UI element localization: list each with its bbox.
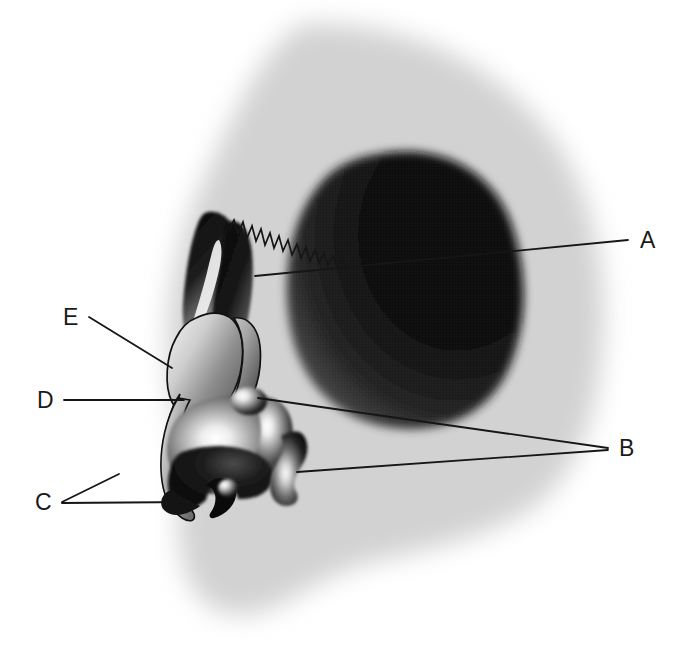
label-c: C <box>35 491 52 514</box>
leader-line-c-upper <box>62 474 119 502</box>
anatomy-illustration-canvas <box>0 0 697 659</box>
anatomy-figure: A B C D E <box>0 0 697 659</box>
label-b: B <box>619 437 634 460</box>
leader-line-e <box>89 317 172 368</box>
label-a: A <box>640 229 655 252</box>
nodule-inferior <box>218 479 238 497</box>
label-d: D <box>37 389 54 412</box>
nodule-superior <box>231 387 267 415</box>
leader-line-c-lower <box>62 502 190 503</box>
label-e: E <box>63 306 78 329</box>
dark-rounded-mass <box>287 151 524 429</box>
